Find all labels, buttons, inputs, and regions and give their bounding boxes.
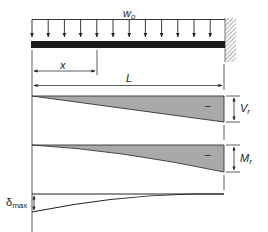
load-arrows [32,20,210,38]
distributed-load [32,20,225,38]
load-label: wo [123,7,136,21]
x-label: x [59,59,66,71]
moment-sign: – [205,149,211,160]
beam [31,41,225,48]
shear-sign: – [205,100,211,111]
moment-diagram: – Mr [32,145,252,190]
cantilever-beam-diagram: wo x L – Vr – Mr δmax [0,0,268,232]
deflection-diagram: δmax [6,194,224,212]
shear-label: Vr [240,102,250,116]
deflection-label: δmax [6,196,27,210]
length-label: L [126,72,132,84]
shear-diagram: – Vr [32,96,250,140]
fixed-support-wall [225,18,236,62]
moment-label: Mr [240,152,252,166]
